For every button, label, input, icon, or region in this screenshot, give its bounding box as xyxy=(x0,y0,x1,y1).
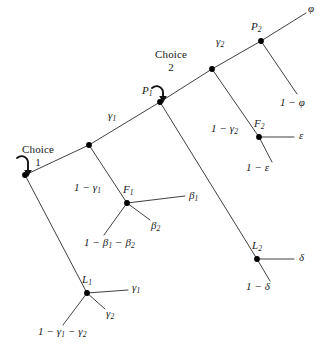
branch-label-one-minus-delta: 1 − δ xyxy=(246,281,270,293)
node-l2[interactable] xyxy=(254,256,260,262)
decision-tree-diagram: Choice 1 Choice 2 P2 P1 F1 F2 L1 L2 γ1 γ… xyxy=(0,0,328,357)
choice-2-word: Choice xyxy=(143,49,199,61)
edge-l1-gamma2 xyxy=(87,293,105,309)
branch-label-gamma1-l1: γ1 xyxy=(132,282,140,295)
one-minus-delta-text: 1 − δ xyxy=(246,280,270,292)
one-minus-gamma2-sub: 2 xyxy=(234,127,238,136)
epsilon-text: ε xyxy=(299,129,303,141)
node-label-l1-sub: 1 xyxy=(88,278,92,287)
branch-label-delta: δ xyxy=(299,252,304,264)
node-f1[interactable] xyxy=(124,200,130,206)
one-minus-gammas-text2: − γ xyxy=(65,325,83,337)
one-minus-epsilon-text: 1 − ε xyxy=(246,161,269,173)
edge-branch1-p1 xyxy=(89,102,160,145)
edge-f2-oneminusepsilon xyxy=(259,137,272,162)
branch-label-gamma2-l1: γ2 xyxy=(106,308,114,321)
node-label-f2-sub: 2 xyxy=(261,122,265,131)
gamma1-l1-sub: 1 xyxy=(136,286,140,295)
gamma1-spine-sub: 1 xyxy=(112,114,116,123)
node-l1[interactable] xyxy=(84,290,90,296)
branch-label-gamma1-spine: γ1 xyxy=(108,110,116,123)
edge-p1-branch2 xyxy=(160,69,212,102)
node-label-l1: L1 xyxy=(82,274,92,287)
one-minus-beta-text1: 1 − β xyxy=(84,236,108,248)
node-label-f2-base: F xyxy=(254,117,261,129)
edge-l1-rest xyxy=(63,293,87,325)
one-minus-gammas-text1: 1 − γ xyxy=(38,325,61,337)
beta1-sub: 1 xyxy=(195,194,199,203)
branch-label-one-minus-beta1-beta2: 1 − β1 − β2 xyxy=(84,237,135,250)
edge-l2-oneminusdelta xyxy=(257,259,270,281)
node-label-p2-sub: 2 xyxy=(258,25,262,34)
node-choice1[interactable] xyxy=(22,172,28,178)
node-branch1[interactable] xyxy=(86,142,92,148)
edge-f1-beta1 xyxy=(127,196,185,203)
edge-p2-oneminusphi xyxy=(261,41,297,94)
branch-label-beta2: β2 xyxy=(151,220,160,233)
edge-f1-rest xyxy=(104,203,127,235)
branch-label-one-minus-phi: 1 − φ xyxy=(280,97,305,109)
branch-label-gamma2-spine: γ2 xyxy=(216,36,224,49)
phi-text: φ xyxy=(308,2,314,14)
node-label-p2: P2 xyxy=(251,21,262,34)
one-minus-beta-text2: − β xyxy=(112,236,131,248)
one-minus-gamma2-text: 1 − γ xyxy=(211,122,234,134)
one-minus-gamma1-text: 1 − γ xyxy=(74,181,97,193)
node-label-p1-sub: 1 xyxy=(149,89,153,98)
edge-p1-l2 xyxy=(160,102,257,259)
edge-p2-phi xyxy=(261,13,306,41)
branch-label-beta1: β1 xyxy=(189,190,198,203)
gamma2-spine-sub: 2 xyxy=(220,40,224,49)
node-label-f2: F2 xyxy=(254,118,265,131)
node-label-f1-base: F xyxy=(123,183,130,195)
node-label-p1: P1 xyxy=(142,85,153,98)
node-label-f1: F1 xyxy=(123,184,134,197)
branch-label-one-minus-gamma2: 1 − γ2 xyxy=(211,123,238,136)
edge-l1-gamma1 xyxy=(87,290,128,293)
branch-label-one-minus-gamma1: 1 − γ1 xyxy=(74,182,101,195)
branch-label-one-minus-epsilon: 1 − ε xyxy=(246,162,269,174)
choice-1-number: 1 xyxy=(10,157,66,169)
gamma2-l1-sub: 2 xyxy=(110,312,114,321)
node-label-l2: L2 xyxy=(252,240,262,253)
one-minus-gammas-sub2: 2 xyxy=(83,330,87,339)
one-minus-beta-sub2: 2 xyxy=(131,241,135,250)
choice-1-word: Choice xyxy=(10,144,66,156)
node-p2[interactable] xyxy=(258,38,264,44)
branch-label-epsilon: ε xyxy=(299,130,303,142)
node-label-f1-sub: 1 xyxy=(130,188,134,197)
edge-f1-beta2 xyxy=(127,203,150,220)
branch-label-phi: φ xyxy=(308,3,314,15)
node-label-p2-base: P xyxy=(251,20,258,32)
branch-label-one-minus-gamma1-gamma2: 1 − γ1 − γ2 xyxy=(38,326,87,339)
one-minus-phi-text: 1 − φ xyxy=(280,96,305,108)
node-label-l2-sub: 2 xyxy=(258,244,262,253)
node-branch2[interactable] xyxy=(209,66,215,72)
delta-text: δ xyxy=(299,251,304,263)
choice-2-number: 2 xyxy=(143,62,199,74)
node-p1[interactable] xyxy=(157,99,163,105)
beta2-sub: 2 xyxy=(157,224,161,233)
one-minus-gamma1-sub: 1 xyxy=(97,186,101,195)
node-f2[interactable] xyxy=(256,134,262,140)
node-label-p1-base: P xyxy=(142,84,149,96)
